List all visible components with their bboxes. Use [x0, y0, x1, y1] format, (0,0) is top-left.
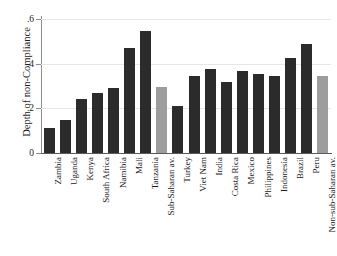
x-axis-label: Costa Rica	[230, 157, 240, 196]
x-axis-label: Indonesia	[279, 157, 289, 192]
x-axis-label: Mexico	[246, 157, 256, 185]
bar	[44, 128, 55, 153]
bar	[156, 87, 167, 153]
y-tick-mark	[36, 153, 41, 154]
y-axis-title: Depth of non-Compliance	[20, 12, 34, 152]
gridline	[41, 19, 331, 20]
plot-area	[41, 17, 331, 153]
y-tick-label: .4	[4, 59, 34, 69]
bar	[108, 88, 119, 153]
x-axis-label: Viet Nam	[198, 157, 208, 192]
bar	[285, 58, 296, 153]
y-tick-label: 0	[4, 148, 34, 158]
x-axis-label: Uganda	[69, 157, 79, 185]
x-axis-label: Namibia	[118, 157, 128, 188]
y-tick-label: .6	[4, 14, 34, 24]
bar	[237, 71, 248, 153]
y-tick-label: .2	[4, 103, 34, 113]
x-axis-label: Kenya	[85, 157, 95, 181]
x-axis-label: South Africa	[101, 157, 111, 203]
bar	[92, 93, 103, 153]
bar	[124, 48, 135, 153]
bar	[76, 99, 87, 153]
x-axis-label: Non-sub-Saharan av.	[327, 157, 337, 232]
x-axis-label: Sub-Saharan av.	[166, 157, 176, 215]
bar	[317, 76, 328, 153]
x-axis-label: Brazil	[295, 157, 305, 179]
x-axis-label: Philippines	[263, 157, 273, 198]
bar	[301, 44, 312, 153]
x-axis-label: Tanzania	[150, 157, 160, 189]
bar	[253, 74, 264, 153]
bar	[60, 120, 71, 154]
x-axis-label: Turkey	[182, 157, 192, 183]
bar	[269, 76, 280, 153]
bar	[172, 106, 183, 153]
bar	[205, 69, 216, 153]
x-axis-line	[41, 153, 332, 154]
x-axis-label: Zambia	[53, 157, 63, 185]
x-axis-label: Peru	[311, 157, 321, 174]
x-axis-label: India	[214, 157, 224, 176]
bar	[189, 76, 200, 153]
bar	[221, 82, 232, 153]
x-axis-label: Mali	[134, 157, 144, 174]
bar	[140, 31, 151, 153]
